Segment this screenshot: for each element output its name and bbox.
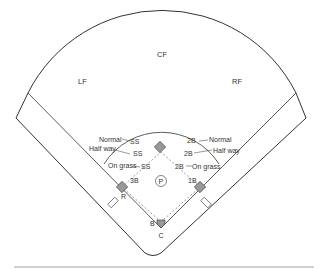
center-fielder-label: CF — [157, 50, 167, 59]
2b-halfway-label: 2B — [184, 150, 193, 157]
right-foul-line — [161, 93, 296, 228]
ss-halfway-depth-label: Half way — [89, 145, 116, 153]
third-base-coach-box — [108, 197, 119, 208]
leader-ss-halfway — [115, 150, 130, 154]
runner-label: R — [121, 193, 126, 200]
left-fielder-label: LF — [78, 77, 87, 86]
ss-halfway-label: SS — [133, 150, 143, 157]
2b-halfway-depth-label: Half way — [213, 147, 240, 155]
ss-normal-depth-label: Normal — [99, 136, 122, 143]
first-base-coach-box — [201, 197, 212, 208]
catcher-label: C — [159, 232, 164, 239]
outfield-fence — [16, 10, 306, 255]
ss-grass-label: SS — [141, 163, 151, 170]
pitcher-label: P — [159, 178, 164, 185]
right-fielder-label: RF — [232, 77, 242, 86]
first-base-label: 1B — [188, 177, 197, 184]
ss-normal-label: SS — [130, 138, 140, 145]
2b-normal-label: 2B — [187, 137, 196, 144]
leader-ss-normal — [122, 139, 130, 141]
2b-grass-depth-label: On grass — [192, 163, 221, 171]
ss-grass-depth-label: On grass — [108, 162, 137, 170]
left-foul-line — [28, 93, 161, 228]
2b-normal-depth-label: Normal — [209, 136, 232, 143]
third-base-label: 3B — [130, 177, 139, 184]
batter-label: B — [150, 220, 155, 227]
second-base — [154, 141, 165, 152]
third-base — [116, 181, 127, 192]
home-plate — [157, 220, 165, 228]
bottom-divider — [14, 266, 314, 268]
2b-grass-label: 2B — [175, 163, 184, 170]
baseball-field-diagram: LF CF RF Normal SS Half way SS On grass … — [0, 0, 320, 269]
leader-2b-normal — [199, 140, 208, 141]
